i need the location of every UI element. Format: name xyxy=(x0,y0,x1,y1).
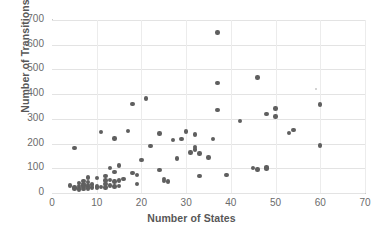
gridline-vertical xyxy=(97,20,98,193)
data-point xyxy=(224,173,228,177)
data-point xyxy=(179,137,183,141)
y-axis-tick-label: 600 xyxy=(10,38,44,49)
gridline-vertical xyxy=(231,20,232,193)
data-point xyxy=(121,177,125,181)
data-point xyxy=(197,174,201,178)
data-point xyxy=(273,106,277,110)
data-point xyxy=(72,186,76,190)
y-axis-tick-label: 700 xyxy=(10,13,44,24)
data-point xyxy=(287,131,291,135)
data-point xyxy=(135,182,139,186)
data-point xyxy=(184,129,188,133)
gridline-horizontal xyxy=(52,168,365,169)
data-point xyxy=(90,185,94,189)
data-point xyxy=(117,163,121,167)
data-point xyxy=(291,128,295,132)
y-axis-tick-label: 0 xyxy=(10,186,44,197)
data-point xyxy=(175,156,179,160)
gridline-horizontal xyxy=(52,69,365,70)
data-point xyxy=(130,102,134,106)
data-point xyxy=(117,184,121,188)
gridline-horizontal xyxy=(52,45,365,46)
data-point xyxy=(211,137,215,141)
data-point xyxy=(318,102,322,106)
data-point xyxy=(193,132,197,136)
y-axis-tick-label: 500 xyxy=(10,62,44,73)
data-point xyxy=(157,168,161,172)
data-point xyxy=(255,167,259,171)
data-point xyxy=(255,75,259,79)
data-point xyxy=(95,176,99,180)
gridline-horizontal xyxy=(52,20,365,21)
data-point xyxy=(148,144,152,148)
data-point xyxy=(264,112,268,116)
data-point xyxy=(315,88,318,91)
x-axis-tick-label: 60 xyxy=(305,197,335,208)
data-point xyxy=(197,151,201,155)
gridline-vertical xyxy=(186,20,187,193)
data-point xyxy=(135,173,139,177)
data-point xyxy=(238,119,242,123)
data-point xyxy=(126,129,130,133)
data-point xyxy=(139,158,143,162)
scatter-chart: Number of Transitions Number of States 0… xyxy=(0,0,383,233)
gridline-horizontal xyxy=(52,94,365,95)
data-point xyxy=(318,143,322,147)
gridline-vertical xyxy=(365,20,366,193)
y-axis-tick-label: 100 xyxy=(10,161,44,172)
data-point xyxy=(112,136,116,140)
data-point xyxy=(264,166,268,170)
x-axis-tick-label: 10 xyxy=(82,197,112,208)
data-point xyxy=(157,131,161,135)
x-axis-tick-label: 20 xyxy=(126,197,156,208)
plot-area xyxy=(52,20,365,193)
data-point xyxy=(188,150,192,154)
data-point xyxy=(166,179,170,183)
y-axis-tick-label: 300 xyxy=(10,112,44,123)
x-axis-title: Number of States xyxy=(0,212,383,224)
data-point xyxy=(81,187,85,191)
data-point xyxy=(206,155,210,159)
data-point xyxy=(171,138,175,142)
x-axis-tick-label: 40 xyxy=(216,197,246,208)
data-point xyxy=(72,146,76,150)
x-axis-tick-label: 50 xyxy=(261,197,291,208)
gridline-horizontal xyxy=(52,193,365,194)
gridline-horizontal xyxy=(52,119,365,120)
y-axis-tick-label: 400 xyxy=(10,87,44,98)
data-point xyxy=(144,96,148,100)
x-axis-tick-label: 70 xyxy=(350,197,380,208)
y-axis-tick-label: 200 xyxy=(10,137,44,148)
data-point xyxy=(215,81,219,85)
data-point xyxy=(215,30,219,34)
x-axis-tick-label: 30 xyxy=(171,197,201,208)
data-point xyxy=(215,108,219,112)
data-point xyxy=(112,170,116,174)
gridline-vertical xyxy=(141,20,142,193)
x-axis-tick-label: 0 xyxy=(37,197,67,208)
data-point xyxy=(99,130,103,134)
data-point xyxy=(273,114,277,118)
